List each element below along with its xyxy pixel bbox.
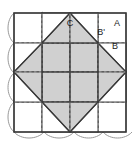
piece-label-b-prime: B' bbox=[97, 27, 105, 37]
bg-corner-bottom-right bbox=[98, 102, 126, 132]
center-square-bottom-right bbox=[70, 72, 98, 102]
piece-label-b: B bbox=[112, 41, 118, 51]
center-square-bottom-left bbox=[42, 72, 70, 102]
piece-label-c: C bbox=[67, 18, 74, 28]
center-square-top-right bbox=[70, 43, 98, 72]
arc-bottom-4 bbox=[103, 132, 132, 138]
quilt-block-svg: C B' A B bbox=[0, 0, 138, 146]
arc-left-4 bbox=[8, 102, 14, 132]
seam-allowance-arcs-bottom bbox=[14, 132, 132, 138]
arc-left-2 bbox=[8, 43, 14, 73]
bg-corner-top-left bbox=[14, 13, 42, 43]
arc-bottom-2 bbox=[44, 132, 74, 138]
seam-allowance-arcs-left bbox=[8, 13, 14, 132]
arc-bottom-1 bbox=[14, 132, 44, 138]
arc-left-3 bbox=[8, 73, 14, 102]
piece-label-a: A bbox=[114, 18, 120, 28]
arc-bottom-3 bbox=[74, 132, 103, 138]
bg-corner-bottom-left bbox=[14, 102, 42, 132]
center-square-top-left bbox=[42, 43, 70, 72]
arc-left-1 bbox=[8, 13, 14, 43]
quilt-block-diagram: C B' A B bbox=[0, 0, 138, 146]
